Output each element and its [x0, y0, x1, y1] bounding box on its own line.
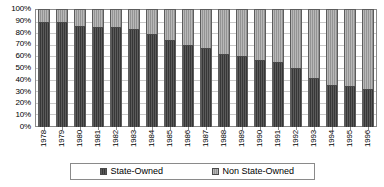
bar-segment-state-owned[interactable]: [147, 35, 156, 127]
bar-segment-non-state-owned[interactable]: [255, 9, 264, 61]
x-axis-tick-label: 1986: [184, 130, 192, 147]
y-axis-tick-label: 40%: [16, 76, 31, 84]
bar-segment-non-state-owned[interactable]: [345, 9, 354, 87]
bar-segment-non-state-owned[interactable]: [273, 9, 282, 63]
x-axis-tick-label: 1979: [58, 130, 66, 147]
bar-slot: [179, 9, 197, 127]
bar-segment-state-owned[interactable]: [165, 41, 174, 127]
bar-slot: [305, 9, 323, 127]
legend-item-state-owned[interactable]: State-Owned: [71, 167, 193, 176]
stacked-bar[interactable]: [200, 9, 211, 127]
stacked-bar[interactable]: [326, 9, 337, 127]
x-axis-tick-label: 1989: [238, 130, 246, 147]
x-axis-tick-label: 1991: [274, 130, 282, 147]
stacked-bar[interactable]: [38, 9, 49, 127]
stacked-bar[interactable]: [146, 9, 157, 127]
stacked-bar[interactable]: [362, 9, 373, 127]
x-axis-label-slot: 1993: [305, 130, 323, 160]
bar-segment-non-state-owned[interactable]: [201, 9, 210, 49]
bar-segment-non-state-owned[interactable]: [165, 9, 174, 41]
bar-segment-state-owned[interactable]: [183, 46, 192, 127]
bar-slot: [341, 9, 359, 127]
bar-segment-state-owned[interactable]: [363, 90, 372, 127]
bar-segment-non-state-owned[interactable]: [183, 9, 192, 46]
stacked-bar[interactable]: [290, 9, 301, 127]
x-axis-tick-label: 1995: [346, 130, 354, 147]
stacked-bar[interactable]: [254, 9, 265, 127]
stacked-bar[interactable]: [92, 9, 103, 127]
x-axis-label-slot: 1979: [53, 130, 71, 160]
bar-segment-non-state-owned[interactable]: [129, 9, 138, 30]
bar-slot: [143, 9, 161, 127]
bar-slot: [287, 9, 305, 127]
x-axis-tick-label: 1982: [112, 130, 120, 147]
bar-segment-non-state-owned[interactable]: [75, 9, 84, 27]
x-axis-label-slot: 1988: [215, 130, 233, 160]
bar-slot: [125, 9, 143, 127]
bar-slot: [359, 9, 377, 127]
y-axis-tick-label: 100%: [11, 5, 31, 13]
x-axis-label-slot: 1987: [197, 130, 215, 160]
stacked-bar[interactable]: [344, 9, 355, 127]
legend-item-non-state-owned[interactable]: Non State-Owned: [193, 167, 315, 176]
x-axis-tick-label: 1990: [256, 130, 264, 147]
bar-segment-non-state-owned[interactable]: [39, 9, 48, 23]
bar-segment-state-owned[interactable]: [309, 79, 318, 127]
bar-segment-state-owned[interactable]: [39, 23, 48, 127]
x-axis-tick-label: 1994: [328, 130, 336, 147]
bar-segment-state-owned[interactable]: [273, 63, 282, 127]
y-axis-tick-label: 30%: [16, 88, 31, 96]
x-axis-label-slot: 1981: [89, 130, 107, 160]
bar-segment-state-owned[interactable]: [345, 87, 354, 127]
stacked-bar-chart: 0%10%20%30%40%50%60%70%80%90%100% 197819…: [0, 0, 384, 187]
bar-segment-state-owned[interactable]: [327, 86, 336, 127]
bar-segment-state-owned[interactable]: [111, 28, 120, 127]
bar-segment-non-state-owned[interactable]: [219, 9, 228, 55]
stacked-bar[interactable]: [128, 9, 139, 127]
stacked-bar[interactable]: [308, 9, 319, 127]
x-axis-tick-label: 1978: [40, 130, 48, 147]
bar-segment-non-state-owned[interactable]: [111, 9, 120, 28]
bar-segment-non-state-owned[interactable]: [93, 9, 102, 28]
bar-slot: [53, 9, 71, 127]
bar-segment-non-state-owned[interactable]: [57, 9, 66, 23]
y-axis: 0%10%20%30%40%50%60%70%80%90%100%: [0, 9, 33, 127]
stacked-bar[interactable]: [74, 9, 85, 127]
bar-segment-non-state-owned[interactable]: [309, 9, 318, 79]
x-axis-tick-label: 1981: [94, 130, 102, 147]
bar-segment-non-state-owned[interactable]: [327, 9, 336, 86]
stacked-bar[interactable]: [56, 9, 67, 127]
bar-segment-non-state-owned[interactable]: [291, 9, 300, 69]
bar-segment-state-owned[interactable]: [291, 69, 300, 127]
stacked-bar[interactable]: [236, 9, 247, 127]
stacked-bar[interactable]: [164, 9, 175, 127]
stacked-bar[interactable]: [272, 9, 283, 127]
legend-label: State-Owned: [110, 167, 163, 176]
bar-segment-state-owned[interactable]: [237, 57, 246, 127]
stacked-bar[interactable]: [182, 9, 193, 127]
x-axis-tick-label: 1984: [148, 130, 156, 147]
bar-segment-state-owned[interactable]: [129, 30, 138, 127]
bar-segment-state-owned[interactable]: [75, 27, 84, 127]
y-axis-tick-label: 10%: [16, 111, 31, 119]
bar-segment-state-owned[interactable]: [93, 28, 102, 127]
x-axis-label-slot: 1995: [341, 130, 359, 160]
bar-segment-state-owned[interactable]: [255, 61, 264, 127]
bar-slot: [233, 9, 251, 127]
bar-segment-state-owned[interactable]: [57, 23, 66, 127]
x-axis-tick-label: 1996: [364, 130, 372, 147]
y-axis-tick-label: 50%: [16, 64, 31, 72]
stacked-bar[interactable]: [218, 9, 229, 127]
bar-segment-non-state-owned[interactable]: [147, 9, 156, 35]
bar-slot: [107, 9, 125, 127]
x-axis-label-slot: 1984: [143, 130, 161, 160]
stacked-bar[interactable]: [110, 9, 121, 127]
bar-segment-state-owned[interactable]: [201, 49, 210, 127]
bar-segment-non-state-owned[interactable]: [237, 9, 246, 57]
legend-label: Non State-Owned: [222, 167, 294, 176]
bar-segment-state-owned[interactable]: [219, 55, 228, 127]
x-axis-label-slot: 1983: [125, 130, 143, 160]
x-axis-label-slot: 1982: [107, 130, 125, 160]
x-axis-tick-label: 1992: [292, 130, 300, 147]
bar-segment-non-state-owned[interactable]: [363, 9, 372, 90]
